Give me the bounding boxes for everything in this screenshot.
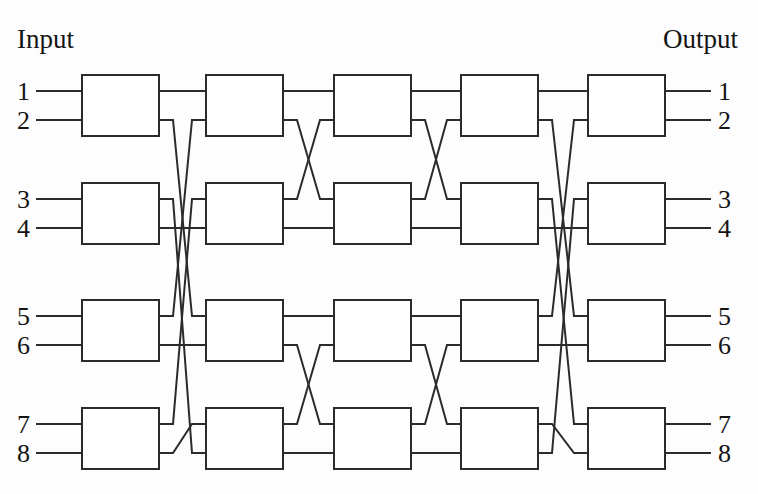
link-s1-p8-to-p7	[159, 424, 206, 453]
input-port-label-3: 3	[17, 185, 30, 214]
output-header-label: Output	[663, 24, 739, 54]
switch-box-s1-r4[interactable]	[82, 408, 159, 469]
output-port-label-7: 7	[718, 410, 731, 439]
output-ports-group: 12345678	[665, 77, 731, 468]
input-port-label-1: 1	[17, 77, 30, 106]
switch-box-s5-r1[interactable]	[588, 75, 665, 136]
input-port-label-4: 4	[17, 214, 30, 243]
switch-box-s3-r4[interactable]	[334, 408, 411, 469]
switch-box-s5-r2[interactable]	[588, 183, 665, 244]
switch-box-s1-r3[interactable]	[82, 300, 159, 361]
output-port-label-6: 6	[718, 331, 731, 360]
switch-box-s2-r3[interactable]	[206, 300, 283, 361]
input-port-label-5: 5	[17, 302, 30, 331]
link-s3-p3-to-p2	[411, 120, 461, 199]
switch-box-s2-r4[interactable]	[206, 408, 283, 469]
output-port-label-2: 2	[718, 106, 731, 135]
output-port-label-3: 3	[718, 185, 731, 214]
output-port-label-1: 1	[718, 77, 731, 106]
interstage-wiring-group	[159, 91, 588, 453]
switch-box-s4-r2[interactable]	[461, 183, 538, 244]
switch-box-s1-r1[interactable]	[82, 75, 159, 136]
link-s2-p7-to-p6	[283, 345, 334, 424]
link-s4-p7-to-p8	[538, 424, 588, 453]
network-diagram-root: Input Output 12345678 12345678	[0, 0, 758, 494]
link-s1-p5-to-p2	[159, 120, 206, 316]
link-s1-p3-to-p8	[159, 199, 206, 453]
link-s3-p7-to-p6	[411, 345, 461, 424]
switch-box-s4-r4[interactable]	[461, 408, 538, 469]
switch-box-s3-r1[interactable]	[334, 75, 411, 136]
input-port-label-6: 6	[17, 331, 30, 360]
input-ports-group: 12345678	[17, 77, 82, 468]
link-s2-p3-to-p2	[283, 120, 334, 199]
switch-box-s5-r4[interactable]	[588, 408, 665, 469]
switch-box-s4-r1[interactable]	[461, 75, 538, 136]
input-port-label-2: 2	[17, 106, 30, 135]
output-port-label-5: 5	[718, 302, 731, 331]
switch-box-s1-r2[interactable]	[82, 183, 159, 244]
switch-box-s2-r1[interactable]	[206, 75, 283, 136]
input-header-label: Input	[17, 24, 74, 54]
link-s1-p7-to-p3	[159, 199, 206, 424]
switch-box-s4-r3[interactable]	[461, 300, 538, 361]
switch-box-s5-r3[interactable]	[588, 300, 665, 361]
switch-box-s2-r2[interactable]	[206, 183, 283, 244]
output-port-label-8: 8	[718, 439, 731, 468]
output-port-label-4: 4	[718, 214, 731, 243]
interconnection-network-svg: Input Output 12345678 12345678	[0, 0, 758, 494]
link-s4-p8-to-p3	[538, 199, 588, 453]
input-port-label-8: 8	[17, 439, 30, 468]
switch-box-s3-r2[interactable]	[334, 183, 411, 244]
switch-boxes-group	[82, 75, 665, 469]
link-s4-p3-to-p7	[538, 199, 588, 424]
input-port-label-7: 7	[17, 410, 30, 439]
switch-box-s3-r3[interactable]	[334, 300, 411, 361]
link-s4-p5-to-p2	[538, 120, 588, 316]
